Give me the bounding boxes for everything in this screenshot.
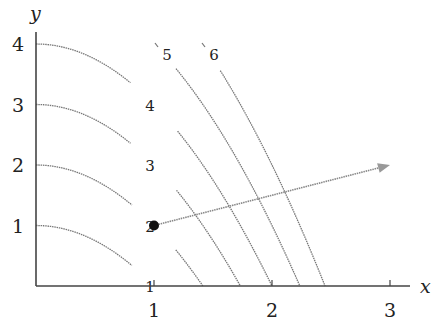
x-axis-label: x (420, 275, 431, 297)
ticks: 1231234 (12, 33, 396, 321)
level-curve-5-stub (155, 43, 158, 47)
level-curve-2 (36, 165, 132, 205)
axes: x y (29, 2, 431, 297)
y-tick-label: 2 (12, 154, 24, 176)
x-tick-label: 1 (148, 299, 160, 321)
level-curve-label: 3 (145, 157, 155, 175)
level-curve-label: 1 (145, 278, 155, 296)
x-tick-label: 2 (266, 299, 278, 321)
y-tick-label: 4 (12, 33, 24, 55)
gradient-vector-shaft (154, 168, 378, 226)
gradient-vector-arrowhead (377, 163, 390, 173)
level-curve-label: 6 (209, 46, 219, 64)
x-tick-label: 3 (384, 299, 396, 321)
level-curves: 123456 (36, 43, 325, 296)
level-curve-1 (36, 226, 132, 266)
level-curve-3 (177, 190, 241, 286)
level-curve-6 (220, 71, 325, 286)
level-curve-label: 5 (162, 46, 172, 64)
level-curve-label: 4 (145, 97, 155, 115)
level-curve-3 (36, 105, 131, 144)
point-marker (149, 221, 159, 231)
level-curve-2 (176, 250, 203, 286)
level-curve-chart: 123456 x y 1231234 (0, 0, 437, 328)
level-curve-4 (178, 131, 272, 286)
y-tick-label: 1 (12, 215, 24, 237)
level-curve-6-stub (202, 43, 205, 47)
level-curve-4 (36, 44, 130, 83)
y-tick-label: 3 (12, 94, 24, 116)
y-axis-label: y (29, 2, 41, 24)
